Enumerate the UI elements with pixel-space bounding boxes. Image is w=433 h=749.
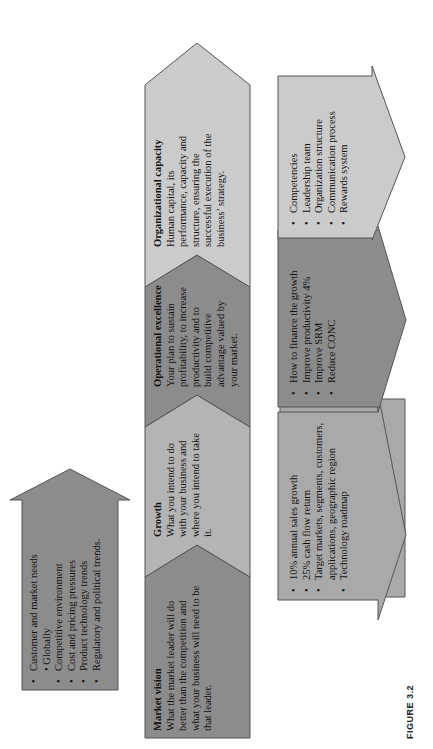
growth-action-item: 10% annual sales growth bbox=[288, 416, 301, 592]
organizational-actions-text: Competencies Leadership team Organizatio… bbox=[288, 75, 351, 225]
operational-action-item: Improve productivity 4% bbox=[301, 235, 314, 395]
action-arrows bbox=[0, 0, 433, 749]
organizational-action-item: Communication process bbox=[326, 75, 339, 225]
growth-actions-list: 10% annual sales growth 25% cash flow re… bbox=[288, 416, 351, 592]
organizational-action-item: Competencies bbox=[288, 75, 301, 225]
operational-action-item: How to finance the growth bbox=[288, 235, 301, 395]
organizational-action-item: Leadership team bbox=[301, 75, 314, 225]
operational-action-item: Improve SRM bbox=[313, 235, 326, 395]
organizational-action-item: Rewards system bbox=[338, 75, 351, 225]
operational-actions-text: How to finance the growth Improve produc… bbox=[288, 235, 338, 395]
growth-action-item: Target markets, segments, customers, app… bbox=[313, 416, 338, 592]
growth-action-item: Technology roadmap bbox=[338, 416, 351, 592]
growth-action-item: 25% cash flow return bbox=[301, 416, 314, 592]
organizational-action-item: Organization structure bbox=[313, 75, 326, 225]
operational-actions-list: How to finance the growth Improve produc… bbox=[288, 235, 338, 395]
growth-actions-text: 10% annual sales growth 25% cash flow re… bbox=[288, 416, 351, 592]
operational-action-item: Reduce CONC bbox=[326, 235, 339, 395]
organizational-actions-list: Competencies Leadership team Organizatio… bbox=[288, 75, 351, 225]
